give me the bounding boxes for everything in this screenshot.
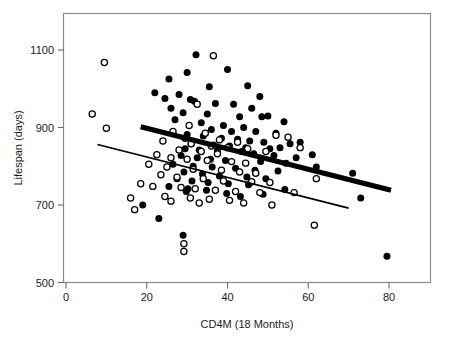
data-point-open [103, 125, 109, 131]
data-point-filled [151, 89, 158, 96]
data-point-filled [260, 139, 267, 146]
data-point-open [192, 186, 198, 192]
scatter-plot-figure: 5007009001100 020406080 Lifespan (days) … [0, 0, 450, 341]
data-point-open [181, 248, 187, 254]
data-point-filled [165, 76, 172, 83]
y-tick-label: 500 [36, 277, 54, 289]
data-point-open [162, 193, 168, 199]
data-point-open [174, 174, 180, 180]
data-point-filled [357, 195, 364, 202]
data-point-filled [139, 202, 146, 209]
data-point-open [237, 169, 243, 175]
data-point-filled [293, 154, 300, 161]
data-point-open [187, 195, 193, 201]
data-point-open [263, 148, 269, 154]
data-point-filled [204, 110, 211, 117]
data-point-filled [209, 164, 216, 171]
y-tick-label: 1100 [30, 44, 54, 56]
data-point-open [200, 176, 206, 182]
y-tick-label: 900 [36, 122, 54, 134]
plot-canvas: 5007009001100 020406080 Lifespan (days) … [0, 0, 450, 341]
data-point-open [138, 181, 144, 187]
x-tick-label: 0 [63, 291, 69, 303]
data-point-open [184, 156, 190, 162]
data-point-open [176, 147, 182, 153]
data-point-open [253, 170, 259, 176]
data-point-open [168, 198, 174, 204]
data-point-open [154, 152, 160, 158]
data-point-open [168, 155, 174, 161]
data-point-filled [161, 95, 168, 102]
data-point-open [243, 160, 249, 166]
data-point-open [194, 101, 200, 107]
x-tick-label: 20 [141, 291, 153, 303]
data-point-open [285, 134, 291, 140]
x-axis-title: CD4M (18 Months) [201, 318, 294, 330]
data-point-filled [309, 151, 316, 158]
x-tick-label: 60 [302, 291, 314, 303]
data-point-filled [248, 105, 255, 112]
data-point-filled [222, 157, 229, 164]
data-point-open [226, 197, 232, 203]
data-point-filled [287, 140, 294, 147]
data-point-open [218, 167, 224, 173]
data-point-open [220, 178, 226, 184]
data-point-filled [223, 190, 230, 197]
data-point-filled [244, 82, 251, 89]
data-point-open [164, 164, 170, 170]
data-point-open [216, 137, 222, 143]
data-point-open [269, 202, 275, 208]
data-point-open [214, 151, 220, 157]
data-point-open [212, 187, 218, 193]
data-point-filled [276, 144, 283, 151]
data-point-filled [264, 112, 271, 119]
data-point-filled [206, 83, 213, 90]
data-point-filled [256, 93, 263, 100]
data-point-open [204, 157, 210, 163]
data-point-open [132, 207, 138, 213]
data-point-filled [182, 145, 189, 152]
data-point-filled [180, 232, 187, 239]
data-point-filled [240, 124, 247, 131]
data-point-filled [198, 119, 205, 126]
x-tick-label: 80 [383, 291, 395, 303]
y-axis-title: Lifespan (days) [12, 110, 24, 185]
x-tick-label: 40 [221, 291, 233, 303]
data-point-filled [172, 116, 179, 123]
data-point-open [232, 188, 238, 194]
data-point-filled [224, 66, 231, 73]
data-point-open [228, 159, 234, 165]
data-point-filled [184, 69, 191, 76]
data-point-open [210, 53, 216, 59]
data-point-open [146, 161, 152, 167]
data-point-open [150, 183, 156, 189]
data-point-filled [193, 51, 200, 58]
data-point-open [89, 111, 95, 117]
data-point-open [101, 59, 107, 65]
data-point-open [158, 172, 164, 178]
data-point-open [273, 132, 279, 138]
data-point-filled [281, 118, 288, 125]
data-point-filled [236, 113, 243, 120]
data-point-open [128, 195, 134, 201]
data-point-open [257, 190, 263, 196]
data-point-open [241, 200, 247, 206]
data-point-open [267, 179, 273, 185]
data-point-filled [230, 101, 237, 108]
data-point-open [311, 222, 317, 228]
data-point-filled [258, 113, 265, 120]
data-point-open [186, 122, 192, 128]
data-point-open [297, 145, 303, 151]
data-point-filled [188, 177, 195, 184]
data-point-filled [165, 183, 172, 190]
data-point-open [181, 241, 187, 247]
data-point-filled [167, 105, 174, 112]
data-point-open [178, 184, 184, 190]
data-point-filled [349, 170, 356, 177]
data-point-filled [383, 253, 390, 260]
data-point-filled [180, 109, 187, 116]
data-point-open [206, 196, 212, 202]
data-point-filled [176, 91, 183, 98]
data-point-open [198, 148, 204, 154]
data-point-filled [208, 126, 215, 133]
